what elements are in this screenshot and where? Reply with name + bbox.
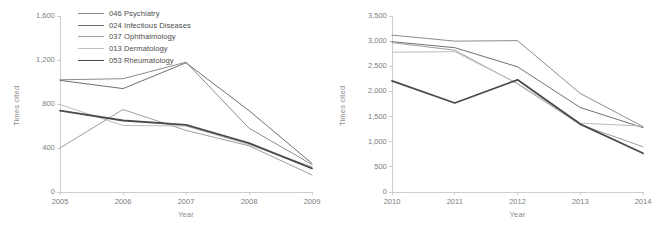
x-tick-label: 2005 [40,197,80,206]
y-tick-label: 800 [15,99,55,108]
chart-panel-left: Times cited Year 046 Psychiatry 024 Infe… [0,0,330,235]
y-tick-label: 400 [15,143,55,152]
legend-label-053-rheumatology: 053 Rheumatology [109,56,174,65]
y-tick-label: 2,000 [347,86,387,95]
legend-label-024-infectious-diseases: 024 Infectious Diseases [109,21,191,30]
legend-item-046-psychiatry: 046 Psychiatry [78,8,191,20]
y-axis-title-right: Times cited [338,86,347,126]
legend-swatch-053-rheumatology [78,60,104,61]
y-tick-label: 0 [15,187,55,196]
y-tick-label: 3,500 [347,11,387,20]
x-tick-label: 2007 [166,197,206,206]
legend-item-037-ophthalmology: 037 Ophthalmology [78,31,191,43]
x-tick-label: 2010 [372,197,412,206]
y-tick-label: 1,600 [15,11,55,20]
legend-item-053-rheumatology: 053 Rheumatology [78,54,191,66]
y-tick-label: 1,000 [347,137,387,146]
legend-swatch-037-ophthalmology [78,36,104,37]
x-tick-label: 2006 [103,197,143,206]
y-tick-label: 3,000 [347,36,387,45]
y-tick-label: 1,500 [347,112,387,121]
x-axis-title-left: Year [60,210,312,219]
legend-item-024-infectious-diseases: 024 Infectious Diseases [78,20,191,32]
x-axis-title-right: Year [392,210,643,219]
x-tick-label: 2008 [229,197,269,206]
y-tick-label: 2,500 [347,61,387,70]
x-tick-label: 2009 [292,197,332,206]
legend-label-037-ophthalmology: 037 Ophthalmology [109,32,176,41]
figure-two-line-charts: Times cited Year 046 Psychiatry 024 Infe… [0,0,661,235]
legend-item-013-dermatology: 013 Dermatology [78,43,191,55]
chart-panel-right: Times cited Year 05001,0001,5002,0002,50… [330,0,661,235]
legend-swatch-046-psychiatry [78,13,104,14]
x-tick-label: 2013 [560,197,600,206]
y-tick-label: 0 [347,187,387,196]
x-tick-label: 2011 [435,197,475,206]
legend-label-046-psychiatry: 046 Psychiatry [109,9,160,18]
legend-swatch-013-dermatology [78,48,104,49]
legend-swatch-024-infectious-diseases [78,25,104,26]
x-tick-label: 2012 [498,197,538,206]
x-tick-label: 2014 [623,197,661,206]
y-tick-label: 1,200 [15,55,55,64]
y-tick-label: 500 [347,162,387,171]
chart-legend: 046 Psychiatry 024 Infectious Diseases 0… [78,8,191,66]
legend-label-013-dermatology: 013 Dermatology [109,44,168,53]
